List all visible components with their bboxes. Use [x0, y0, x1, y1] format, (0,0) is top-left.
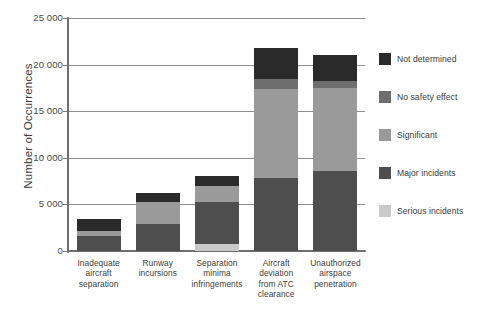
gridline: [69, 251, 365, 252]
bar-segment[interactable]: [195, 186, 239, 202]
x-axis-category-label: Inadequateaircraftseparation: [69, 258, 128, 289]
legend-item[interactable]: Serious incidents: [379, 204, 463, 217]
x-axis-label-line: infringements: [187, 279, 246, 289]
x-axis-label-line: minima: [187, 268, 246, 278]
bar-stack[interactable]: [313, 55, 357, 251]
y-axis-tick-label: 5 000: [5, 198, 63, 209]
legend-color-swatch: [379, 167, 391, 179]
x-axis-labels: InadequateaircraftseparationRunwayincurs…: [69, 258, 365, 314]
bar-segment[interactable]: [313, 171, 357, 251]
bar-segment[interactable]: [313, 81, 357, 88]
bars-layer: [69, 18, 365, 251]
legend-item-label: Significant: [397, 130, 437, 140]
bar-stack[interactable]: [136, 193, 180, 251]
bar-segment[interactable]: [254, 79, 298, 89]
x-axis-label-line: penetration: [306, 279, 365, 289]
y-axis-tick-label: 10 000: [5, 152, 63, 163]
bar-segment[interactable]: [136, 202, 180, 224]
bar-segment[interactable]: [136, 224, 180, 251]
x-axis-label-line: Separation: [187, 258, 246, 268]
bar-segment[interactable]: [254, 89, 298, 178]
x-axis-label-line: Unauthorized: [306, 258, 365, 268]
chart-legend: Not determinedNo safety effectSignifican…: [379, 52, 479, 222]
legend-item-label: Serious incidents: [397, 206, 463, 216]
x-axis-label-line: deviation: [247, 268, 306, 278]
y-axis-tick-labels: 05 00010 00015 00020 00025 000: [0, 0, 63, 314]
y-axis-tick-label: 20 000: [5, 59, 63, 70]
x-axis-label-line: Inadequate: [69, 258, 128, 268]
x-axis-label-line: Aircraft: [247, 258, 306, 268]
x-axis-label-line: aircraft: [69, 268, 128, 278]
y-axis-tick-label: 0: [5, 245, 63, 256]
bar-segment[interactable]: [195, 244, 239, 251]
legend-item[interactable]: Significant: [379, 128, 437, 141]
legend-item-label: No safety effect: [397, 92, 457, 102]
legend-color-swatch: [379, 205, 391, 217]
bar-segment[interactable]: [136, 193, 180, 201]
x-axis-label-line: from ATC: [247, 279, 306, 289]
y-axis-tick-label: 25 000: [5, 12, 63, 23]
stacked-bar-chart: Number of Occurrences 05 00010 00015 000…: [0, 0, 479, 314]
legend-item-label: Major incidents: [397, 168, 456, 178]
x-axis-category-label: Aircraftdeviationfrom ATCclearance: [247, 258, 306, 300]
bar-segment[interactable]: [77, 219, 121, 231]
y-axis-tick-label: 15 000: [5, 105, 63, 116]
bar-segment[interactable]: [77, 236, 121, 251]
bar-segment[interactable]: [254, 178, 298, 251]
x-axis-label-line: incursions: [128, 268, 187, 278]
x-axis-category-label: Runwayincursions: [128, 258, 187, 279]
legend-color-swatch: [379, 91, 391, 103]
x-axis-label-line: airspace: [306, 268, 365, 278]
legend-color-swatch: [379, 129, 391, 141]
legend-item[interactable]: No safety effect: [379, 90, 457, 103]
bar-stack[interactable]: [195, 176, 239, 251]
x-axis-label-line: clearance: [247, 289, 306, 299]
bar-segment[interactable]: [313, 55, 357, 81]
bar-segment[interactable]: [195, 176, 239, 185]
legend-color-swatch: [379, 53, 391, 65]
bar-segment[interactable]: [195, 202, 239, 244]
bar-stack[interactable]: [77, 219, 121, 251]
legend-item[interactable]: Major incidents: [379, 166, 456, 179]
legend-item-label: Not determined: [397, 54, 456, 64]
bar-stack[interactable]: [254, 48, 298, 251]
x-axis-label-line: separation: [69, 279, 128, 289]
x-axis-category-label: Separationminimainfringements: [187, 258, 246, 289]
x-axis-label-line: Runway: [128, 258, 187, 268]
x-axis-category-label: Unauthorizedairspacepenetration: [306, 258, 365, 289]
bar-segment[interactable]: [77, 231, 121, 236]
bar-segment[interactable]: [313, 88, 357, 171]
legend-item[interactable]: Not determined: [379, 52, 456, 65]
bar-segment[interactable]: [254, 48, 298, 79]
